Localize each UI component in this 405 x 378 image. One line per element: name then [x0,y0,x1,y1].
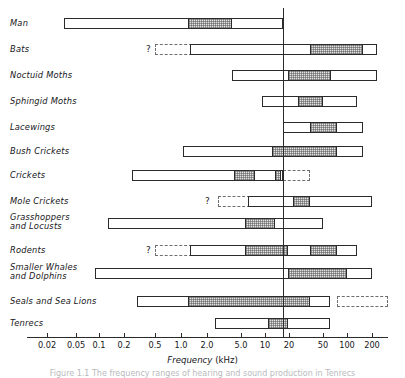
best-sensitivity-segment [272,147,337,156]
range-bar [183,146,363,157]
row-label-line: Noctuid Moths [10,71,72,81]
x-axis-tick-label: 10 [260,340,270,350]
row-label-tenrecs: Tenrecs [10,319,43,329]
best-sensitivity-segment [288,269,347,278]
range-bar [262,96,357,107]
uncertain-range-dashed [218,196,250,207]
x-axis-tick [372,333,373,338]
x-axis-tick-label: 1.0 [174,340,187,350]
best-sensitivity-segment [268,319,288,328]
row-label-lacewings: Lacewings [10,123,55,133]
x-axis-tick [289,333,290,338]
row-label-line: Bats [10,45,29,55]
best-sensitivity-segment [245,219,275,228]
x-axis-tick [323,333,324,338]
range-bar [248,196,372,207]
uncertain-range-dashed [155,44,192,55]
range-bar [283,122,363,133]
row-label-line: Crickets [10,171,45,181]
x-axis-title: Frequency (kHz) [0,355,405,365]
x-axis-tick [265,333,266,338]
range-bar [108,218,323,229]
x-axis-tick-label: 20 [284,340,294,350]
row-label-line: Sphingid Moths [10,97,77,107]
x-axis-tick [181,333,182,338]
best-sensitivity-segment [298,97,323,106]
row-label-noctuid-moths: Noctuid Moths [10,71,72,81]
x-axis-tick [241,333,242,338]
row-label-line: Tenrecs [10,319,43,329]
x-axis-tick [155,333,156,338]
range-bar [132,170,283,181]
x-axis-tick [207,333,208,338]
best-sensitivity-segment [234,171,255,180]
row-label-rodents: Rodents [10,246,45,256]
row-label-crickets: Crickets [10,171,45,181]
row-label-line: Bush Crickets [10,147,69,157]
best-sensitivity-segment [288,71,331,80]
x-axis-tick-label: 0.1 [92,340,105,350]
x-axis-tick [99,333,100,338]
row-label-line: Seals and Sea Lions [10,297,96,307]
uncertain-range-dashed [283,170,310,181]
best-sensitivity-segment [245,246,288,255]
uncertain-range-dashed [155,245,192,256]
figure-caption-fragment: Figure 1.1 The frequency ranges of heari… [0,369,405,378]
question-mark-annotation: ? [205,196,210,207]
row-label-smaller-whales-and-dolphins: Smaller Whalesand Dolphins [10,263,77,282]
row-label-line: Man [10,19,28,29]
x-axis-tick-label: 100 [339,340,355,350]
x-axis-tick-label: 200 [364,340,380,350]
row-label-bush-crickets: Bush Crickets [10,147,69,157]
x-axis-tick-label: 50 [318,340,328,350]
row-label-sphingid-moths: Sphingid Moths [10,97,77,107]
x-axis-tick [47,333,48,338]
x-axis-tick-label: 0.05 [67,340,85,350]
row-label-mole-crickets: Mole Crickets [10,197,68,207]
best-sensitivity-segment [310,45,363,54]
row-label-line: and Dolphins [10,272,77,281]
range-bar [232,70,377,81]
row-label-seals-and-sea-lions: Seals and Sea Lions [10,297,96,307]
range-bar [95,268,372,279]
row-label-line: and Locusts [10,222,70,231]
row-label-bats: Bats [10,45,29,55]
best-sensitivity-segment [293,197,310,206]
x-axis-tick-label: 5.0 [234,340,247,350]
row-label-line: Lacewings [10,123,55,133]
x-axis-title-unit: (kHz) [215,355,238,365]
range-bar [64,18,283,29]
best-sensitivity-segment [310,246,337,255]
x-axis-tick [124,333,125,338]
x-axis-tick-label: 0.5 [148,340,161,350]
question-mark-annotation: ? [146,245,151,256]
range-bar [137,296,330,307]
x-axis-tick [76,333,77,338]
best-sensitivity-segment [188,297,310,306]
row-label-line: Rodents [10,246,45,256]
best-sensitivity-segment [310,123,337,132]
best-sensitivity-segment [275,171,281,180]
row-label-line: Mole Crickets [10,197,68,207]
x-axis-tick-label: 0.2 [117,340,130,350]
x-axis-tick-label: 2.0 [200,340,213,350]
x-axis-tick-label: 0.02 [38,340,56,350]
figure-canvas: ManBats?Noctuid MothsSphingid MothsLacew… [0,0,405,378]
row-label-grasshoppers-and-locusts: Grasshoppersand Locusts [10,213,70,232]
best-sensitivity-segment [188,19,232,28]
uncertain-range-dashed [337,296,388,307]
question-mark-annotation: ? [146,44,151,55]
reference-line-20khz [283,8,284,337]
range-bar [190,245,357,256]
x-axis-title-main: Frequency [167,355,212,365]
row-label-man: Man [10,19,28,29]
range-bar [215,318,330,329]
x-axis-tick [347,333,348,338]
